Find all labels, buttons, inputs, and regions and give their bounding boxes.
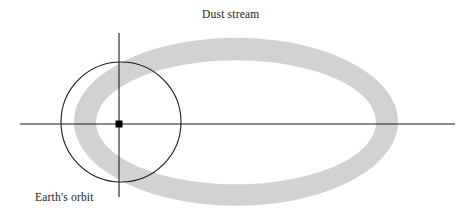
dust-stream-annulus-shape [74, 38, 398, 206]
earths-orbit-label: Earth's orbit [35, 192, 94, 204]
sun-marker [116, 121, 123, 128]
dust-stream-label: Dust stream [202, 9, 259, 21]
dust-stream-band [74, 38, 398, 206]
dust-stream-diagram: Dust stream Earth's orbit [0, 0, 464, 215]
diagram-canvas [0, 0, 464, 215]
